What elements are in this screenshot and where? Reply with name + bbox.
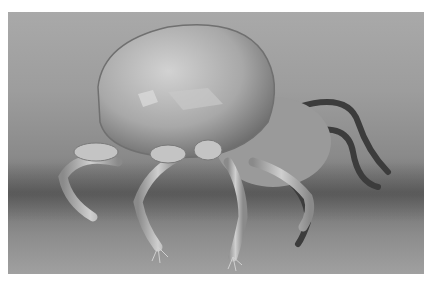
leg-setae — [152, 247, 242, 271]
mite-illustration — [8, 12, 424, 274]
micrograph-image — [8, 12, 424, 274]
front-legs — [63, 157, 310, 257]
